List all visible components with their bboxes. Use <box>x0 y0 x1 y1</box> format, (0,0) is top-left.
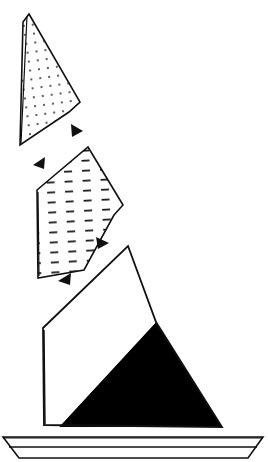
shape-dashed-wedge[interactable] <box>37 147 123 278</box>
arrow-1-head-icon <box>71 124 83 137</box>
dashed-wedge-fill <box>37 147 123 278</box>
arrow-2 <box>33 157 45 169</box>
arrow-2-head-icon <box>33 157 45 169</box>
figure-svg <box>0 0 268 462</box>
arrow-1 <box>71 124 83 137</box>
shape-dotted-wedge[interactable] <box>20 14 80 145</box>
figure-canvas <box>0 0 268 462</box>
base-platform[interactable] <box>3 437 263 458</box>
split-wedge-left-edge-accent <box>44 330 45 424</box>
arrow-3 <box>96 237 109 249</box>
arrow-3-head-icon <box>96 237 109 249</box>
